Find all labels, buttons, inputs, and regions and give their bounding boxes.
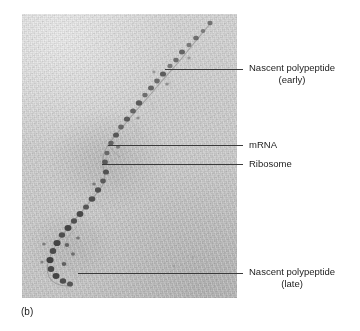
label-mrna: mRNA (249, 139, 277, 151)
label-nascent-polypeptide-late: Nascent polypeptide (late) (249, 266, 335, 289)
label-nascent-polypeptide-early-line1: Nascent polypeptide (249, 62, 335, 73)
label-nascent-polypeptide-early-line2: (early) (249, 74, 335, 86)
leader-line-nascent-polypeptide-early (165, 69, 243, 70)
label-nascent-polypeptide-late-line1: Nascent polypeptide (249, 266, 335, 277)
label-ribosome: Ribosome (249, 158, 292, 170)
polysome-structure (22, 14, 237, 298)
figure-root: Nascent polypeptide (early) mRNA Ribosom… (0, 0, 360, 331)
leader-line-ribosome (102, 164, 243, 165)
leader-line-mrna (108, 145, 243, 146)
label-nascent-polypeptide-early: Nascent polypeptide (early) (249, 62, 335, 85)
polysome-electron-micrograph (22, 14, 237, 298)
mrna-strand (47, 24, 210, 286)
leader-line-nascent-polypeptide-late (78, 273, 243, 274)
label-ribosome-text: Ribosome (249, 158, 292, 169)
label-nascent-polypeptide-late-line2: (late) (249, 278, 335, 290)
label-mrna-text: mRNA (249, 139, 277, 150)
panel-letter: (b) (21, 306, 33, 317)
ribosome-particles (40, 21, 212, 287)
nascent-polypeptide-strands (50, 56, 188, 297)
